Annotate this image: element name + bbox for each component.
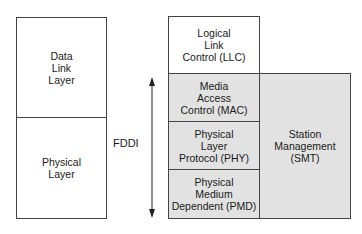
fddi-span-arrow-icon [0, 0, 362, 234]
